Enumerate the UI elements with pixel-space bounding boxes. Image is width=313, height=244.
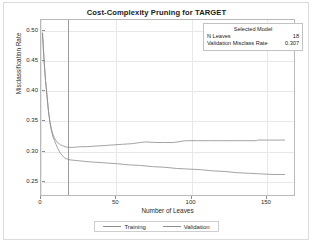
legend-label-validation: Validation: [184, 224, 210, 230]
y-axis-label: Misclassification Rate: [15, 4, 22, 124]
chart-legend: Training Validation: [94, 221, 219, 232]
chart-screenshot: Cost-Complexity Pruning for TARGET 0.500…: [0, 0, 313, 244]
selected-model-title: Selected Model: [207, 26, 299, 32]
y-tick-mark: [42, 60, 45, 61]
legend-swatch-icon: [163, 226, 181, 227]
selected-model-box: Selected Model N Leaves 18 Validation Mi…: [203, 23, 303, 51]
x-tick-label: 150: [261, 199, 271, 205]
n-leaves-value: 18: [289, 33, 299, 40]
x-tick-mark: [191, 196, 192, 199]
selected-model-row: N Leaves 18: [207, 33, 299, 40]
x-tick-mark: [40, 196, 41, 199]
x-tick-label: 100: [186, 199, 196, 205]
x-axis-label: Number of Leaves: [40, 207, 295, 214]
selected-model-row: Validation Misclass Rate 0.307: [207, 40, 299, 47]
legend-swatch-icon: [103, 226, 121, 227]
y-tick-label: 0.40: [8, 87, 38, 93]
legend-label-training: Training: [124, 224, 145, 230]
y-tick-label: 0.50: [8, 27, 38, 33]
line-training: [43, 33, 285, 175]
x-tick-label: 50: [112, 199, 119, 205]
y-tick-mark: [42, 120, 45, 121]
y-tick-mark: [42, 151, 45, 152]
n-leaves-label: N Leaves: [207, 33, 231, 40]
y-axis-ticks: 0.500.450.400.350.300.25: [5, 19, 38, 196]
y-tick-label: 0.35: [8, 117, 38, 123]
x-tick-label: 0: [38, 199, 41, 205]
x-tick-mark: [115, 196, 116, 199]
y-tick-mark: [42, 181, 45, 182]
chart-title: Cost-Complexity Pruning for TARGET: [0, 8, 313, 17]
validation-misclass-rate-value: 0.307: [281, 40, 299, 47]
y-tick-mark: [42, 30, 45, 31]
validation-misclass-rate-label: Validation Misclass Rate: [207, 40, 268, 47]
x-tick-mark: [266, 196, 267, 199]
y-tick-label: 0.30: [8, 148, 38, 154]
y-tick-mark: [42, 90, 45, 91]
legend-entry-validation: Validation: [163, 224, 210, 230]
y-tick-label: 0.45: [8, 57, 38, 63]
legend-entry-training: Training: [103, 224, 145, 230]
y-tick-label: 0.25: [8, 178, 38, 184]
